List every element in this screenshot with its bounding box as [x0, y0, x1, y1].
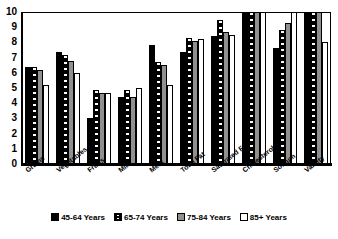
legend-item-label: 45-64 Years	[61, 213, 105, 222]
y-axis-tick-label: 5	[11, 83, 17, 93]
y-axis-tick-label: 3	[11, 113, 17, 123]
y-axis-tick-label: 4	[11, 98, 17, 108]
y-axis-tick-label: 7	[11, 53, 17, 63]
legend-item: 75-84 Years	[177, 213, 231, 222]
legend-item: 45-64 Years	[51, 213, 105, 222]
bar	[322, 42, 328, 164]
bar	[136, 88, 142, 164]
bar	[291, 12, 297, 164]
bar-group	[269, 12, 300, 164]
y-axis-tick-label: 6	[11, 68, 17, 78]
chart-legend: 45-64 Years65-74 Years75-84 Years85+ Yea…	[0, 209, 338, 225]
legend-item-label: 85+ Years	[250, 213, 287, 222]
x-axis-category-labels: GrainsVegetablesFruitsMilkMeatTotal FatS…	[0, 166, 338, 206]
legend-swatch-icon	[177, 213, 185, 221]
y-axis-tick-label: 10	[6, 7, 17, 17]
bar	[198, 39, 204, 164]
bar-group	[22, 12, 53, 164]
y-axis-tick-label: 8	[11, 37, 17, 47]
bar-group	[177, 12, 208, 164]
y-axis-tick-label: 2	[11, 129, 17, 139]
legend-swatch-icon	[240, 213, 248, 221]
bar	[167, 85, 173, 164]
bar-group	[207, 12, 238, 164]
legend-item: 65-74 Years	[114, 213, 168, 222]
bars-layer	[22, 12, 331, 164]
bar-group	[84, 12, 115, 164]
y-axis-tick-labels: 109876543210	[0, 12, 19, 164]
y-axis-tick-label: 1	[11, 144, 17, 154]
bar	[229, 35, 235, 164]
legend-item: 85+ Years	[240, 213, 287, 222]
bar-group	[300, 12, 331, 164]
legend-swatch-icon	[114, 213, 122, 221]
bar-chart: 109876543210 GrainsVegetablesFruitsMilkM…	[0, 0, 338, 239]
bar	[260, 12, 266, 164]
y-axis-tick-label: 9	[11, 22, 17, 32]
bar-group	[146, 12, 177, 164]
bar-group	[53, 12, 84, 164]
legend-swatch-icon	[51, 213, 59, 221]
bar-group	[115, 12, 146, 164]
legend-item-label: 75-84 Years	[187, 213, 231, 222]
legend-item-label: 65-74 Years	[124, 213, 168, 222]
bar	[105, 93, 111, 164]
bar	[43, 85, 49, 164]
